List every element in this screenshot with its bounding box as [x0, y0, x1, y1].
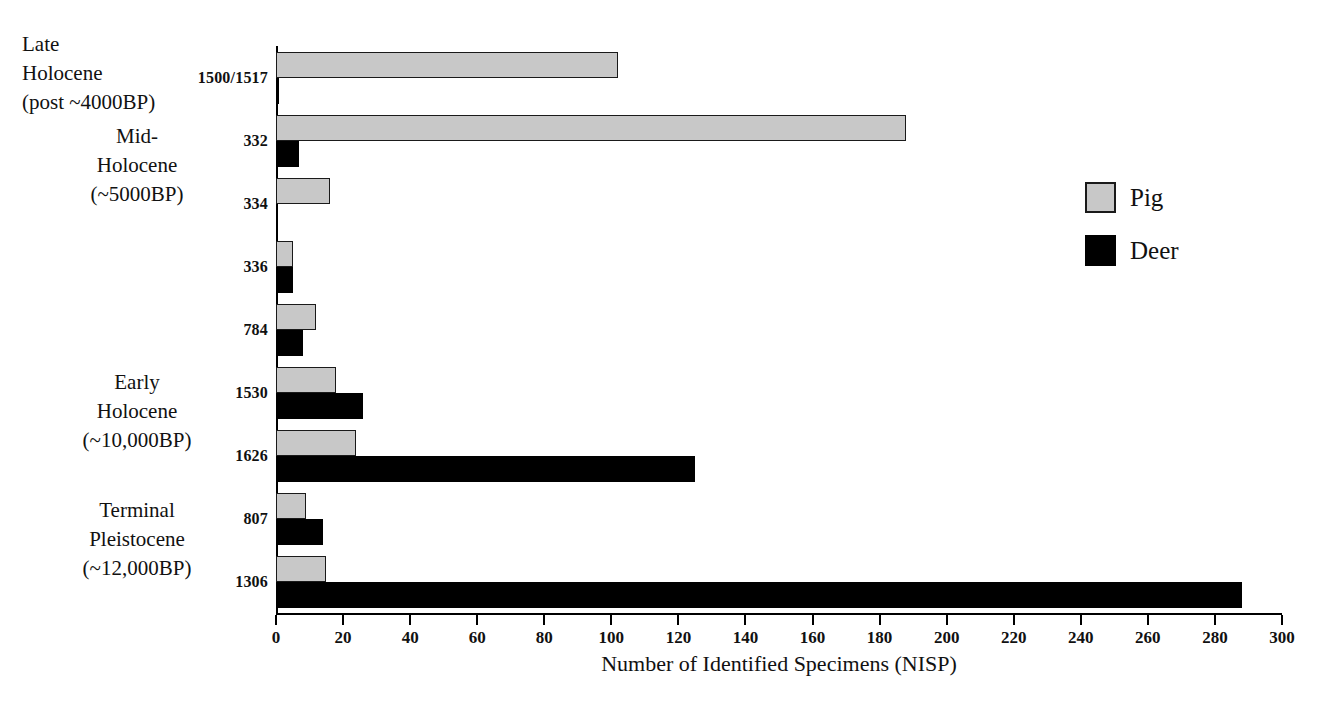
legend: Pig Deer — [1085, 182, 1179, 288]
x-tick-180 — [879, 615, 881, 625]
x-tick-label-280: 280 — [1202, 628, 1228, 648]
category-label-1626: 1626 — [235, 447, 268, 465]
x-tick-120 — [677, 615, 679, 625]
legend-swatch-deer-icon — [1085, 235, 1116, 266]
bar-deer-784 — [276, 330, 303, 356]
x-tick-160 — [812, 615, 814, 625]
category-label-1500/1517: 1500/1517 — [198, 69, 268, 87]
period-label-mid-holocene: Mid- Holocene (~5000BP) — [22, 122, 252, 209]
bar-deer-807 — [276, 519, 323, 545]
x-tick-60 — [476, 615, 478, 625]
bar-pig-1306 — [276, 556, 326, 582]
x-tick-260 — [1147, 615, 1149, 625]
x-tick-220 — [1013, 615, 1015, 625]
x-tick-label-80: 80 — [536, 628, 553, 648]
bar-deer-332 — [276, 141, 299, 167]
bar-pig-1626 — [276, 430, 356, 456]
bar-deer-336 — [276, 267, 293, 293]
x-tick-label-140: 140 — [733, 628, 759, 648]
x-tick-label-0: 0 — [272, 628, 281, 648]
bar-deer-1500/1517 — [276, 78, 279, 104]
x-tick-label-200: 200 — [934, 628, 960, 648]
x-tick-label-220: 220 — [1001, 628, 1027, 648]
x-tick-label-300: 300 — [1269, 628, 1295, 648]
bar-deer-1530 — [276, 393, 363, 419]
x-tick-label-120: 120 — [666, 628, 692, 648]
x-tick-label-260: 260 — [1135, 628, 1161, 648]
x-tick-label-60: 60 — [469, 628, 486, 648]
x-tick-40 — [409, 615, 411, 625]
legend-label-deer: Deer — [1130, 238, 1179, 263]
legend-label-pig: Pig — [1130, 185, 1163, 210]
category-label-332: 332 — [243, 132, 268, 150]
bar-pig-332 — [276, 115, 906, 141]
category-label-807: 807 — [243, 510, 268, 528]
bar-pig-334 — [276, 178, 330, 204]
legend-item-deer: Deer — [1085, 235, 1179, 266]
chart-figure: Late Holocene (post ~4000BP) Mid- Holoce… — [0, 0, 1334, 714]
period-label-early-holocene: Early Holocene (~10,000BP) — [22, 368, 252, 455]
bar-pig-784 — [276, 304, 316, 330]
x-tick-240 — [1080, 615, 1082, 625]
x-tick-label-20: 20 — [335, 628, 352, 648]
x-tick-200 — [946, 615, 948, 625]
category-label-334: 334 — [243, 195, 268, 213]
bar-pig-336 — [276, 241, 293, 267]
bar-pig-1530 — [276, 367, 336, 393]
x-tick-label-180: 180 — [867, 628, 893, 648]
x-tick-label-40: 40 — [402, 628, 419, 648]
x-tick-80 — [543, 615, 545, 625]
x-tick-20 — [342, 615, 344, 625]
x-tick-280 — [1214, 615, 1216, 625]
period-label-terminal-pleistocene: Terminal Pleistocene (~12,000BP) — [22, 496, 252, 583]
x-tick-label-240: 240 — [1068, 628, 1094, 648]
x-tick-100 — [610, 615, 612, 625]
legend-item-pig: Pig — [1085, 182, 1179, 213]
category-label-1306: 1306 — [235, 573, 268, 591]
category-label-784: 784 — [243, 321, 268, 339]
x-axis-title: Number of Identified Specimens (NISP) — [276, 651, 1282, 677]
category-label-1530: 1530 — [235, 384, 268, 402]
x-tick-300 — [1281, 615, 1283, 625]
bar-deer-1626 — [276, 456, 695, 482]
bar-pig-807 — [276, 493, 306, 519]
x-tick-label-160: 160 — [800, 628, 826, 648]
bar-deer-1306 — [276, 582, 1242, 608]
x-tick-140 — [744, 615, 746, 625]
x-tick-0 — [275, 615, 277, 625]
x-axis-line — [276, 613, 1282, 615]
x-tick-label-100: 100 — [599, 628, 625, 648]
bar-pig-1500/1517 — [276, 52, 618, 78]
category-label-336: 336 — [243, 258, 268, 276]
plot-area: 0204060801001201401601802002202402602803… — [276, 46, 1282, 613]
legend-swatch-pig-icon — [1085, 182, 1116, 213]
